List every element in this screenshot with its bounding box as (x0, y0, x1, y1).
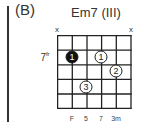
interval-label-F: F (70, 115, 74, 122)
interval-label-3m: 3m (111, 115, 121, 122)
interval-label-7: 7 (99, 115, 103, 122)
divider-bar (7, 6, 9, 122)
finger-dot-1: 1 (95, 51, 108, 64)
interval-label-5: 5 (84, 115, 88, 122)
section-label: (B) (15, 1, 35, 18)
muted-string-marker-6: x (129, 25, 133, 34)
finger-dot-2: 2 (110, 65, 123, 78)
muted-string-marker-1: x (55, 25, 59, 34)
finger-dot-3: 3 (80, 81, 93, 94)
finger-dot-root: 1 (66, 51, 79, 64)
chord-title: Em7 (III) (62, 5, 130, 20)
fret-position-label: 7fr (40, 52, 49, 63)
